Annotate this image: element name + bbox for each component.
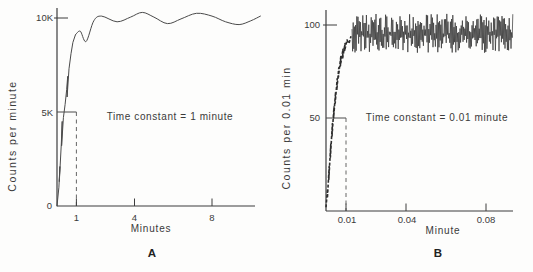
y-tick-label-50: 50 <box>309 112 320 123</box>
annotation-a: Time constant = 1 minute <box>107 111 234 122</box>
figure-ratemeter-time-constants: 10K 5K 0 1 4 8 Counts per minute Minutes… <box>0 0 533 272</box>
y-tick-label-0: 0 <box>47 200 52 211</box>
y-tick-label-10k: 10K <box>36 12 54 23</box>
x-axis-label-b: Minute <box>426 225 461 236</box>
curve-a-rise <box>57 35 75 206</box>
curve-b-noise-band <box>352 14 513 53</box>
chart-panel-a: 10K 5K 0 1 4 8 Counts per minute Minutes… <box>6 8 260 259</box>
x-tick-label-001: 0.01 <box>338 214 357 225</box>
curve-a-plateau <box>75 12 260 41</box>
x-tick-label-008: 0.08 <box>477 214 496 225</box>
y-tick-label-100: 100 <box>304 19 320 30</box>
y-tick-label-5k: 5K <box>41 107 53 118</box>
x-tick-label-004: 0.04 <box>398 214 417 225</box>
x-tick-label-8: 8 <box>209 212 214 223</box>
x-axis-label-a: Minutes <box>131 223 172 234</box>
chart-panel-b: 100 50 0.01 0.04 0.08 Counts per 0.01 mi… <box>280 10 513 259</box>
y-axis-label-a: Counts per minute <box>6 80 18 191</box>
figure-canvas: 10K 5K 0 1 4 8 Counts per minute Minutes… <box>0 0 533 272</box>
x-tick-label-4: 4 <box>132 212 137 223</box>
annotation-b: Time constant = 0.01 minute <box>366 112 508 123</box>
panel-letter-a: A <box>148 247 156 259</box>
y-axis-label-b: Counts per 0.01 min <box>280 66 292 189</box>
curve-b-rise <box>326 36 351 207</box>
x-tick-label-1: 1 <box>74 212 79 223</box>
panel-letter-b: B <box>434 247 442 259</box>
